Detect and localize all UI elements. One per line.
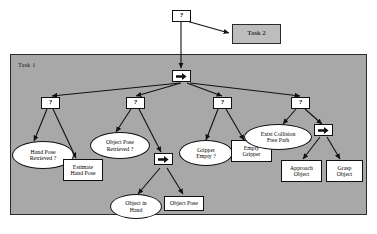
control-node-sel-gripper[interactable]: ? [213,97,232,109]
task2-node[interactable]: Task 2 [232,24,281,44]
control-node-sel-collision[interactable]: ? [291,97,310,109]
condition-node-gripper-empty[interactable]: Gripper Empty ? [179,140,233,166]
node-line-2: Hand [129,207,144,213]
condition-node-exist-collision-free-path[interactable]: Exist Collision Free Path [244,124,312,150]
action-node-estimate-hand-pose[interactable]: Estimate Hand Pose [63,159,103,181]
node-line-2: Object [336,171,353,177]
node-line-2: Retrieved ? [29,155,58,161]
sequence-arrow-icon [158,156,169,163]
control-node-seq-object-pose[interactable] [154,153,173,165]
condition-node-object-pose-retrieved[interactable]: Object Pose Retrieved ? [90,132,150,159]
node-line-2: Free Path [266,137,290,143]
selector-symbol: ? [299,99,303,107]
node-line-2: Gripper [241,151,261,157]
control-node-sel-object-pose[interactable]: ? [126,97,145,109]
selector-symbol: ? [134,99,138,107]
node-line-2: Object [293,171,310,177]
task1-label: Task 1 [18,61,35,68]
sequence-arrow-icon [318,127,329,134]
node-line-2: Empty ? [195,153,216,159]
node-line-1: Object Pose [169,200,199,206]
action-node-grasp-object[interactable]: Grasp Object [326,160,363,182]
node-line-2: Retrieved ? [106,146,135,152]
selector-symbol: ? [180,12,184,20]
node-line-2: Hand Pose [70,170,97,176]
action-node-object-pose[interactable]: Object Pose [164,196,204,211]
condition-node-object-in-hand[interactable]: Object in Hand [110,194,162,219]
action-node-approach-object[interactable]: Approach Object [281,160,322,182]
control-node-root-selector[interactable]: ? [172,10,191,22]
behavior-tree-diagram: Task 1 [0,0,377,234]
selector-symbol: ? [49,99,53,107]
selector-symbol: ? [221,99,225,107]
control-node-task1-sequence[interactable] [172,70,191,82]
sequence-arrow-icon [176,73,187,80]
control-node-sel-hand-pose[interactable]: ? [41,97,60,109]
task2-label: Task 2 [246,30,266,38]
control-node-seq-grasp[interactable] [314,124,333,136]
